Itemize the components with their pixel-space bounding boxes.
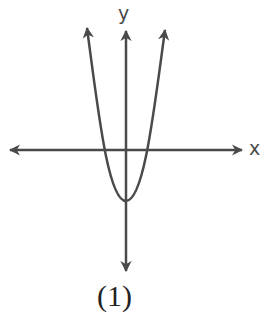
y-axis-label: y: [118, 4, 129, 23]
graph-figure: [0, 0, 264, 317]
figure-caption: (1): [97, 281, 132, 311]
x-axis-label: x: [249, 139, 260, 158]
